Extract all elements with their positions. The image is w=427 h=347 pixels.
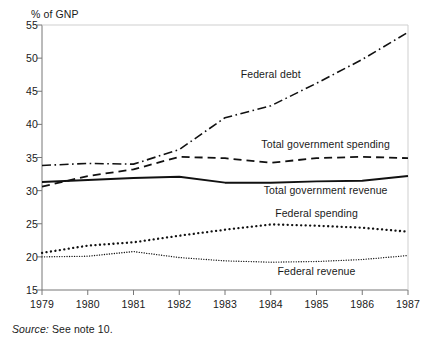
y-tick-label: 20 bbox=[12, 251, 38, 263]
x-tick-label: 1983 bbox=[213, 298, 237, 310]
y-tick-label: 15 bbox=[12, 284, 38, 296]
y-tick-label: 45 bbox=[12, 85, 38, 97]
x-tick-label: 1985 bbox=[305, 298, 329, 310]
y-tick-label: 55 bbox=[12, 19, 38, 31]
series-label-federal-spending: Federal spending bbox=[275, 207, 358, 219]
x-tick-label: 1981 bbox=[122, 298, 146, 310]
x-tick-label: 1982 bbox=[167, 298, 191, 310]
source-value: See note 10. bbox=[52, 323, 113, 335]
figure-container: % of GNP 152025303540455055 197919801981… bbox=[0, 0, 427, 347]
x-tick-label: 1979 bbox=[30, 298, 54, 310]
y-tick-label: 35 bbox=[12, 152, 38, 164]
y-tick-label: 40 bbox=[12, 118, 38, 130]
x-tick-label: 1980 bbox=[76, 298, 100, 310]
chart-plot-area bbox=[0, 0, 427, 347]
x-tick-label: 1986 bbox=[350, 298, 374, 310]
source-label: Source: bbox=[12, 323, 49, 335]
series-line-federal-spending bbox=[42, 224, 408, 252]
series-label-total-government-spending: Total government spending bbox=[261, 138, 390, 150]
y-tick-label: 50 bbox=[12, 52, 38, 64]
series-line-total-government-revenue bbox=[42, 176, 408, 183]
series-line-federal-revenue bbox=[42, 252, 408, 263]
x-tick-label: 1987 bbox=[396, 298, 420, 310]
x-tick-label: 1984 bbox=[259, 298, 283, 310]
series-label-federal-revenue: Federal revenue bbox=[278, 265, 356, 277]
series-label-federal-debt: Federal debt bbox=[241, 68, 301, 80]
y-tick-label: 30 bbox=[12, 185, 38, 197]
series-label-total-government-revenue: Total government revenue bbox=[264, 184, 388, 196]
source-note: Source: See note 10. bbox=[12, 323, 113, 335]
y-tick-label: 25 bbox=[12, 218, 38, 230]
